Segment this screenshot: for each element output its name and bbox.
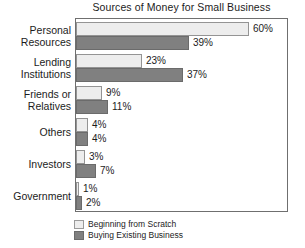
bar-value-label: 60% bbox=[253, 23, 273, 35]
bar-buying[interactable] bbox=[76, 132, 88, 146]
bar-buying[interactable] bbox=[76, 68, 183, 82]
bar-value-label: 3% bbox=[89, 151, 103, 163]
bar-value-label: 23% bbox=[146, 55, 166, 67]
bar-scratch[interactable] bbox=[76, 54, 142, 68]
bar-scratch[interactable] bbox=[76, 182, 79, 196]
category-label-line: Government bbox=[0, 190, 71, 203]
bar-buying[interactable] bbox=[76, 164, 96, 178]
category-label: LendingInstitutions bbox=[0, 56, 71, 81]
bar-row: 2% bbox=[76, 196, 287, 210]
category-label-line: Friends or bbox=[0, 88, 71, 101]
bar-value-label: 2% bbox=[86, 197, 100, 209]
bar-buying[interactable] bbox=[76, 196, 82, 210]
category-label-line: Relatives bbox=[0, 100, 71, 113]
bar-scratch[interactable] bbox=[76, 22, 249, 36]
category-label: Investors bbox=[0, 158, 71, 171]
bar-row: 7% bbox=[76, 164, 287, 178]
category-label-line: Institutions bbox=[0, 68, 71, 81]
bar-row: 60% bbox=[76, 22, 287, 36]
category-label: Friends orRelatives bbox=[0, 88, 71, 113]
legend-item[interactable]: Buying Existing Business bbox=[74, 231, 254, 241]
bar-scratch[interactable] bbox=[76, 150, 85, 164]
bar-row: 11% bbox=[76, 100, 287, 114]
bar-value-label: 9% bbox=[106, 87, 120, 99]
category-label: Government bbox=[0, 190, 71, 203]
legend-label: Buying Existing Business bbox=[88, 230, 183, 241]
category-label: PersonalResources bbox=[0, 24, 71, 49]
bar-row: 37% bbox=[76, 68, 287, 82]
bar-value-label: 39% bbox=[193, 37, 213, 49]
category-label-line: Resources bbox=[0, 36, 71, 49]
bar-value-label: 1% bbox=[83, 183, 97, 195]
bar-scratch[interactable] bbox=[76, 118, 88, 132]
chart-title: Sources of Money for Small Business bbox=[75, 1, 288, 13]
bar-row: 3% bbox=[76, 150, 287, 164]
bar-scratch[interactable] bbox=[76, 86, 102, 100]
legend-item[interactable]: Beginning from Scratch bbox=[74, 220, 254, 230]
chart-legend: Beginning from ScratchBuying Existing Bu… bbox=[74, 220, 254, 242]
bar-row: 1% bbox=[76, 182, 287, 196]
bar-row: 39% bbox=[76, 36, 287, 50]
bar-value-label: 37% bbox=[187, 69, 207, 81]
bar-buying[interactable] bbox=[76, 100, 108, 114]
bar-buying[interactable] bbox=[76, 36, 189, 50]
bar-value-label: 4% bbox=[92, 133, 106, 145]
bar-value-label: 4% bbox=[92, 119, 106, 131]
bars-layer: 60%39%23%37%9%11%4%4%3%7%1%2% bbox=[76, 19, 287, 211]
legend-swatch-scratch bbox=[74, 220, 84, 229]
category-label-line: Investors bbox=[0, 158, 71, 171]
category-label-line: Others bbox=[0, 126, 71, 139]
bar-value-label: 11% bbox=[112, 101, 131, 113]
bar-row: 4% bbox=[76, 132, 287, 146]
chart-container: Sources of Money for Small Business Pers… bbox=[0, 0, 305, 248]
legend-swatch-buying bbox=[74, 231, 84, 240]
bar-row: 23% bbox=[76, 54, 287, 68]
category-label-line: Lending bbox=[0, 56, 71, 69]
bar-row: 4% bbox=[76, 118, 287, 132]
category-label-line: Personal bbox=[0, 24, 71, 37]
legend-label: Beginning from Scratch bbox=[88, 219, 176, 230]
bar-value-label: 7% bbox=[100, 165, 114, 177]
category-axis-labels: PersonalResourcesLendingInstitutionsFrie… bbox=[0, 18, 71, 212]
bar-row: 9% bbox=[76, 86, 287, 100]
category-label: Others bbox=[0, 126, 71, 139]
